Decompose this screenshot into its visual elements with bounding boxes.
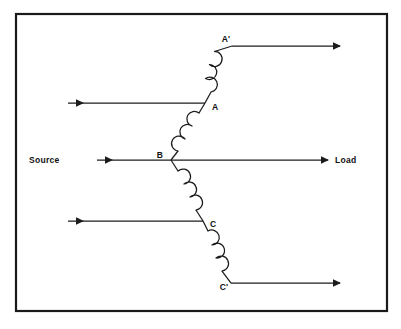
winding-a-b xyxy=(171,103,205,160)
output-line-middle xyxy=(171,156,329,164)
load-label: Load xyxy=(335,155,357,165)
input-top-arrow-icon xyxy=(76,99,84,107)
winding-a-aprime-coil xyxy=(206,51,223,92)
node-label-a: A xyxy=(212,102,218,112)
input-bottom-arrow-icon xyxy=(76,217,84,225)
diagram-figure: Source Load A A' B C C' xyxy=(0,0,401,329)
winding-a-aprime-lead-lower xyxy=(205,92,211,103)
winding-c-cprime-lead-upper xyxy=(203,221,208,231)
source-arrow-icon xyxy=(105,156,113,164)
winding-c-cprime-coil xyxy=(208,230,229,271)
winding-b-c xyxy=(171,160,203,221)
winding-c-cprime xyxy=(203,221,231,283)
winding-b-c-lead-upper xyxy=(171,160,178,171)
input-line-top xyxy=(68,99,205,107)
winding-a-aprime xyxy=(205,46,232,103)
winding-a-b-lead-upper xyxy=(199,103,205,113)
output-bottom-arrow-icon xyxy=(333,279,341,287)
source-label: Source xyxy=(29,155,60,165)
node-label-b: B xyxy=(157,150,163,160)
output-top-arrow-icon xyxy=(333,42,341,50)
node-label-c: C xyxy=(210,219,216,229)
diagram-frame xyxy=(16,14,387,311)
winding-a-b-lead-lower xyxy=(171,151,178,160)
node-label-a-prime: A' xyxy=(222,34,231,44)
winding-a-b-coil xyxy=(172,111,199,151)
input-line-bottom xyxy=(68,217,203,225)
output-line-bottom xyxy=(231,279,341,287)
node-label-c-prime: C' xyxy=(220,282,229,292)
winding-b-c-coil xyxy=(178,169,203,210)
zigzag-transformer-diagram: Source Load A A' B C C' xyxy=(0,0,401,329)
output-line-top xyxy=(232,42,341,50)
winding-b-c-lead-lower xyxy=(196,210,203,221)
winding-a-aprime-lead-upper xyxy=(215,46,233,52)
load-arrow-icon xyxy=(321,156,329,164)
